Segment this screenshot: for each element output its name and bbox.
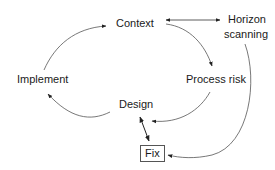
edge-horizon-fix xyxy=(168,44,251,158)
node-process-risk: Process risk xyxy=(186,73,246,86)
edge-context-processrisk xyxy=(166,24,212,66)
node-fix: Fix xyxy=(140,145,165,162)
node-implement: Implement xyxy=(17,73,68,86)
edge-implement-context xyxy=(44,26,106,70)
edge-design-implement xyxy=(48,94,110,117)
node-context: Context xyxy=(116,17,154,30)
node-horizon-line1: Horizon xyxy=(228,13,266,26)
edge-processrisk-design xyxy=(152,92,210,121)
edge-design-fix xyxy=(140,117,149,141)
node-design: Design xyxy=(119,98,153,111)
node-horizon-line2: scanning xyxy=(224,28,268,41)
